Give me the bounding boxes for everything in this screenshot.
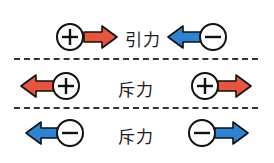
- arrow-right-icon: [84, 25, 118, 49]
- row-attraction: 引力: [0, 20, 274, 60]
- repulsion-label: 斥力: [118, 123, 154, 148]
- positive-charge-icon: [55, 22, 85, 52]
- arrow-right-icon: [215, 121, 249, 145]
- attraction-label: 引力: [125, 26, 161, 51]
- arrow-left-icon: [167, 25, 201, 49]
- negative-charge-icon: [198, 22, 228, 52]
- row-repulsion-positive: 斥力: [0, 70, 274, 110]
- arrow-left-icon: [25, 121, 59, 145]
- repulsion-label: 斥力: [118, 76, 154, 101]
- positive-charge-icon: [190, 71, 220, 101]
- divider-1: [14, 58, 258, 60]
- divider-2: [14, 107, 258, 109]
- row-repulsion-negative: 斥力: [0, 116, 274, 156]
- arrow-left-icon: [20, 74, 54, 98]
- negative-charge-icon: [187, 118, 217, 148]
- positive-charge-icon: [51, 71, 81, 101]
- negative-charge-icon: [55, 118, 85, 148]
- arrow-right-icon: [218, 74, 252, 98]
